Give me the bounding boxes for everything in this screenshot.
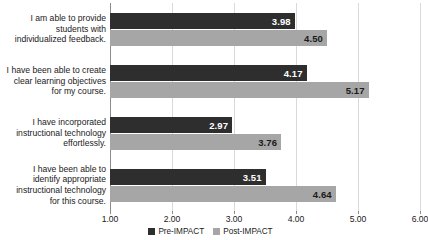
legend-swatch-icon [213, 228, 220, 235]
bar-post-impact: 4.50 [110, 30, 327, 46]
legend-label: Pre-IMPACT [158, 227, 204, 236]
x-axis-tick-label: 1.00 [102, 214, 119, 224]
bar-pre-impact: 3.98 [110, 13, 295, 29]
bar-group: 2.973.76 [110, 107, 420, 159]
bar-pre-impact: 3.51 [110, 169, 266, 185]
bar-post-impact: 5.17 [110, 82, 369, 98]
bar-value-label: 2.97 [209, 119, 228, 130]
bar-value-label: 3.76 [258, 136, 277, 147]
chart-legend: Pre-IMPACTPost-IMPACT [0, 227, 421, 236]
x-axis-tick-label: 4.00 [288, 214, 305, 224]
bar-row: 4.17 [110, 65, 420, 81]
plot-area: 3.984.504.175.172.973.763.514.64 [110, 3, 420, 211]
bar-group: 3.984.50 [110, 3, 420, 55]
category-label: I have been able to create clear learnin… [2, 65, 106, 97]
category-label: I have incorporated instructional techno… [2, 117, 106, 149]
category-label: I am able to provide students with indiv… [2, 13, 106, 45]
bar-row: 2.97 [110, 117, 420, 133]
x-axis-tick-label: 3.00 [226, 214, 243, 224]
bar-pre-impact: 2.97 [110, 117, 232, 133]
bar-row: 4.64 [110, 186, 420, 202]
category-label: I have been able to identify appropriate… [2, 164, 106, 206]
bar-row: 5.17 [110, 82, 420, 98]
bar-value-label: 3.51 [243, 171, 262, 182]
bar-value-label: 4.17 [284, 67, 303, 78]
bar-pre-impact: 4.17 [110, 65, 307, 81]
bar-row: 3.76 [110, 134, 420, 150]
bar-post-impact: 4.64 [110, 186, 336, 202]
bar-group: 3.514.64 [110, 159, 420, 211]
bar-value-label: 5.17 [346, 84, 365, 95]
legend-item-post-impact[interactable]: Post-IMPACT [213, 227, 272, 236]
x-axis-tick-label: 2.00 [164, 214, 181, 224]
x-axis-tick-label: 5.00 [350, 214, 367, 224]
bar-value-label: 3.98 [272, 15, 291, 26]
legend-swatch-icon [148, 228, 155, 235]
bar-row: 3.51 [110, 169, 420, 185]
bar-value-label: 4.64 [313, 188, 332, 199]
gridline [420, 3, 421, 211]
bar-post-impact: 3.76 [110, 134, 281, 150]
bar-row: 4.50 [110, 30, 420, 46]
legend-label: Post-IMPACT [223, 227, 272, 236]
bar-group: 4.175.17 [110, 55, 420, 107]
bar-value-label: 4.50 [304, 32, 323, 43]
legend-item-pre-impact[interactable]: Pre-IMPACT [148, 227, 204, 236]
x-axis-tick-label: 6.00 [412, 214, 428, 224]
bar-row: 3.98 [110, 13, 420, 29]
x-axis: 1.002.003.004.005.006.00 [110, 211, 420, 225]
